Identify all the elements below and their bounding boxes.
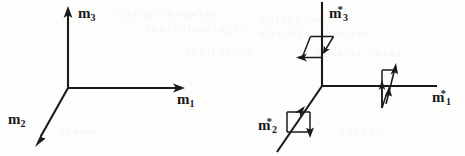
axis-line-m2 [41,88,68,136]
axis-label-m2-star: m*2 [258,118,281,133]
axis-label-m2-subscript: 2 [21,118,26,129]
axis-label-m1-star: m*1 [432,90,455,105]
vector-drawing [0,0,465,156]
axis-label-m2-base: m [8,111,21,127]
axis-label-m1-subscript: 1 [190,98,195,109]
axis-label-m3-subscript: 3 [91,12,96,23]
arrowhead-m2 [35,133,46,147]
axis-label-m3-base: m [78,5,91,21]
right-frame-axes [277,2,437,152]
axis-label-m2-star-subscript: 2 [272,124,277,135]
rotation-decoration-m3-star [296,37,334,62]
axis-line-m2-star [277,86,322,152]
axis-label-m1: m1 [177,92,195,107]
axis-label-m3-star-subscript: 3 [343,12,348,23]
left-frame-axes [35,6,185,147]
axis-label-m2: m2 [8,112,26,127]
axis-label-m1-star-subscript: 1 [446,96,451,107]
figure-canvas: t u s t h a t t h e d e f o r t h e f o … [0,0,465,156]
axis-label-m3: m3 [78,6,96,21]
axis-label-m3-star: m*3 [329,6,352,21]
axis-label-m1-base: m [177,91,190,107]
